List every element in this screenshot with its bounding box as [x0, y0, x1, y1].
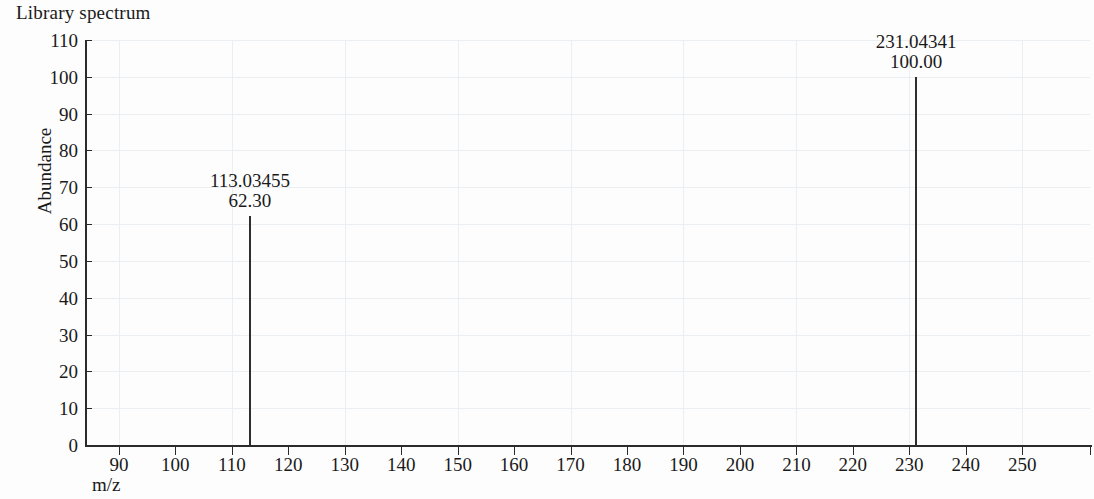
y-tick-mark [85, 187, 92, 188]
y-tick-mark [85, 298, 92, 299]
y-tick-label: 0 [26, 436, 78, 455]
x-axis-title: m/z [92, 474, 121, 496]
y-tick-mark [85, 335, 92, 336]
y-tick-label: 30 [26, 326, 78, 345]
gridline-horizontal [85, 408, 1090, 409]
y-tick-label: 40 [26, 289, 78, 308]
peak-label: 231.04341100.00 [876, 32, 957, 73]
x-axis-line [85, 445, 1092, 447]
y-tick-mark [85, 224, 92, 225]
gridline-vertical [683, 40, 684, 445]
x-tick-label: 210 [766, 455, 826, 474]
y-tick-label: 70 [26, 178, 78, 197]
x-tick-label: 230 [879, 455, 939, 474]
x-tick-label: 240 [936, 455, 996, 474]
x-tick-label: 90 [89, 455, 149, 474]
gridline-horizontal [85, 371, 1090, 372]
y-axis-line [85, 40, 87, 446]
peak-line [249, 216, 251, 445]
peak-intensity-value: 62.30 [210, 191, 290, 212]
peak-label: 113.0345562.30 [210, 171, 290, 212]
gridline-vertical [571, 40, 572, 445]
x-tick-label: 170 [541, 455, 601, 474]
y-tick-label: 80 [26, 141, 78, 160]
y-tick-mark [85, 40, 92, 41]
y-tick-label: 20 [26, 362, 78, 381]
x-tick-label: 140 [371, 455, 431, 474]
y-tick-label: 100 [26, 68, 78, 87]
plot-area [85, 40, 1090, 445]
peak-intensity-value: 100.00 [876, 52, 957, 73]
gridline-horizontal [85, 224, 1090, 225]
peak-line [915, 77, 917, 445]
gridline-horizontal [85, 77, 1090, 78]
x-tick-label: 250 [992, 455, 1052, 474]
x-tick-label: 160 [484, 455, 544, 474]
x-tick-label: 180 [597, 455, 657, 474]
gridline-vertical [796, 40, 797, 445]
gridline-horizontal [85, 114, 1090, 115]
gridline-horizontal [85, 261, 1090, 262]
y-tick-mark [85, 77, 92, 78]
y-tick-mark [85, 408, 92, 409]
gridline-vertical [232, 40, 233, 445]
y-tick-mark [85, 261, 92, 262]
y-tick-mark [85, 371, 92, 372]
gridline-horizontal [85, 335, 1090, 336]
x-tick-label: 150 [428, 455, 488, 474]
y-tick-label: 10 [26, 399, 78, 418]
peak-mz-value: 113.03455 [210, 171, 290, 192]
y-tick-label: 60 [26, 215, 78, 234]
page-title: Library spectrum [16, 2, 151, 24]
x-tick-label: 100 [145, 455, 205, 474]
gridline-vertical [345, 40, 346, 445]
y-tick-label: 110 [26, 31, 78, 50]
gridline-vertical [1022, 40, 1023, 445]
y-tick-label: 90 [26, 105, 78, 124]
x-tick-label: 120 [258, 455, 318, 474]
gridline-vertical [119, 40, 120, 445]
x-tick-mark [1090, 447, 1091, 455]
gridline-horizontal [85, 150, 1090, 151]
x-tick-label: 220 [823, 455, 883, 474]
x-tick-label: 110 [202, 455, 262, 474]
gridline-vertical [909, 40, 910, 445]
y-tick-mark [85, 114, 92, 115]
x-tick-label: 200 [710, 455, 770, 474]
y-tick-label: 50 [26, 252, 78, 271]
peak-mz-value: 231.04341 [876, 32, 957, 53]
gridline-horizontal [85, 298, 1090, 299]
y-tick-mark [85, 445, 92, 446]
y-tick-mark [85, 150, 92, 151]
library-spectrum-figure: Library spectrum Abundance 0102030405060… [0, 0, 1094, 499]
x-tick-label: 130 [315, 455, 375, 474]
x-tick-label: 190 [653, 455, 713, 474]
gridline-vertical [458, 40, 459, 445]
